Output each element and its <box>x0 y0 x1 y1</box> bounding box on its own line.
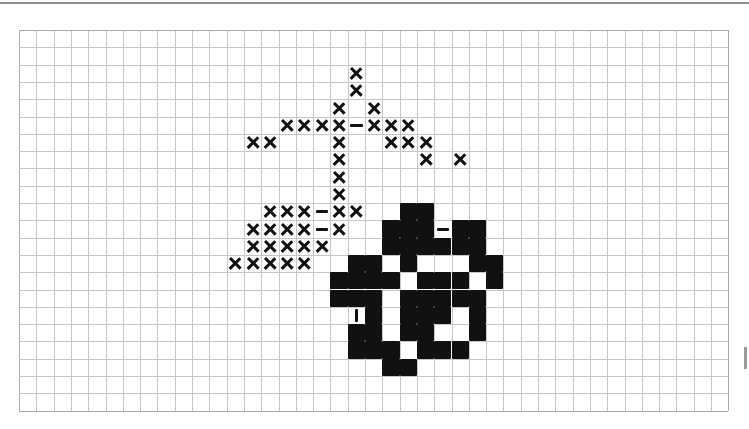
stitch-block[interactable] <box>452 341 469 358</box>
stitch-block[interactable] <box>417 324 434 341</box>
stitch-cross[interactable] <box>261 203 278 220</box>
stitch-bar[interactable] <box>348 307 365 324</box>
stitch-cross[interactable] <box>400 134 417 151</box>
stitch-block[interactable] <box>417 290 434 307</box>
stitch-cross[interactable] <box>365 99 382 116</box>
stitch-block[interactable] <box>348 290 365 307</box>
stitch-cross[interactable] <box>296 220 313 237</box>
stitch-block[interactable] <box>452 272 469 289</box>
stitch-cross[interactable] <box>296 255 313 272</box>
stitch-cross[interactable] <box>279 220 296 237</box>
stitch-block[interactable] <box>400 324 417 341</box>
stitch-block[interactable] <box>330 272 347 289</box>
stitch-cross[interactable] <box>400 117 417 134</box>
cross-stitch-grid[interactable] <box>19 30 728 411</box>
stitch-cross[interactable] <box>382 134 399 151</box>
stitch-cross[interactable] <box>330 117 347 134</box>
stitch-block[interactable] <box>400 238 417 255</box>
stitch-block[interactable] <box>469 238 486 255</box>
stitch-dash[interactable] <box>434 220 451 237</box>
stitch-block[interactable] <box>382 220 399 237</box>
stitch-block[interactable] <box>434 272 451 289</box>
stitch-cross[interactable] <box>296 238 313 255</box>
stitch-cross[interactable] <box>279 117 296 134</box>
stitch-block[interactable] <box>417 307 434 324</box>
stitch-block[interactable] <box>400 203 417 220</box>
stitch-block[interactable] <box>452 290 469 307</box>
stitch-block[interactable] <box>417 341 434 358</box>
stitch-cross[interactable] <box>261 255 278 272</box>
stitch-layer[interactable] <box>19 30 728 411</box>
stitch-block[interactable] <box>382 359 399 376</box>
stitch-cross[interactable] <box>348 203 365 220</box>
stitch-cross[interactable] <box>261 134 278 151</box>
stitch-block[interactable] <box>365 272 382 289</box>
stitch-cross[interactable] <box>417 134 434 151</box>
stitch-block[interactable] <box>365 255 382 272</box>
stitch-block[interactable] <box>469 307 486 324</box>
stitch-block[interactable] <box>400 220 417 237</box>
stitch-cross[interactable] <box>296 117 313 134</box>
stitch-block[interactable] <box>469 290 486 307</box>
stitch-cross[interactable] <box>417 151 434 168</box>
stitch-cross[interactable] <box>330 168 347 185</box>
stitch-block[interactable] <box>382 341 399 358</box>
stitch-block[interactable] <box>417 272 434 289</box>
stitch-block[interactable] <box>469 324 486 341</box>
stitch-block[interactable] <box>330 290 347 307</box>
stitch-block[interactable] <box>417 203 434 220</box>
stitch-cross[interactable] <box>365 117 382 134</box>
stitch-cross[interactable] <box>330 151 347 168</box>
stitch-cross[interactable] <box>296 203 313 220</box>
stitch-block[interactable] <box>365 290 382 307</box>
stitch-dash[interactable] <box>313 203 330 220</box>
stitch-block[interactable] <box>469 255 486 272</box>
stitch-dash[interactable] <box>313 220 330 237</box>
stitch-cross[interactable] <box>348 65 365 82</box>
stitch-cross[interactable] <box>244 134 261 151</box>
stitch-cross[interactable] <box>313 117 330 134</box>
stitch-cross[interactable] <box>330 186 347 203</box>
stitch-cross[interactable] <box>330 99 347 116</box>
stitch-cross[interactable] <box>279 255 296 272</box>
stitch-cross[interactable] <box>348 82 365 99</box>
stitch-block[interactable] <box>400 290 417 307</box>
stitch-block[interactable] <box>382 272 399 289</box>
stitch-block[interactable] <box>348 272 365 289</box>
stitch-block[interactable] <box>434 307 451 324</box>
stitch-block[interactable] <box>400 307 417 324</box>
stitch-block[interactable] <box>417 238 434 255</box>
stitch-cross[interactable] <box>279 203 296 220</box>
stitch-dash[interactable] <box>348 117 365 134</box>
stitch-block[interactable] <box>452 220 469 237</box>
stitch-cross[interactable] <box>244 255 261 272</box>
stitch-cross[interactable] <box>452 151 469 168</box>
stitch-block[interactable] <box>486 255 503 272</box>
stitch-block[interactable] <box>400 359 417 376</box>
stitch-block[interactable] <box>365 324 382 341</box>
stitch-block[interactable] <box>365 341 382 358</box>
stitch-cross[interactable] <box>382 117 399 134</box>
stitch-block[interactable] <box>348 341 365 358</box>
stitch-cross[interactable] <box>330 134 347 151</box>
stitch-block[interactable] <box>348 255 365 272</box>
stitch-block[interactable] <box>365 307 382 324</box>
stitch-block[interactable] <box>434 290 451 307</box>
stitch-cross[interactable] <box>279 238 296 255</box>
stitch-cross[interactable] <box>330 220 347 237</box>
stitch-block[interactable] <box>469 220 486 237</box>
stitch-cross[interactable] <box>261 238 278 255</box>
stitch-cross[interactable] <box>330 203 347 220</box>
stitch-block[interactable] <box>382 238 399 255</box>
stitch-cross[interactable] <box>244 238 261 255</box>
stitch-cross[interactable] <box>261 220 278 237</box>
stitch-block[interactable] <box>486 272 503 289</box>
stitch-block[interactable] <box>417 220 434 237</box>
stitch-block[interactable] <box>452 238 469 255</box>
stitch-cross[interactable] <box>313 238 330 255</box>
stitch-block[interactable] <box>348 324 365 341</box>
stitch-cross[interactable] <box>227 255 244 272</box>
stitch-block[interactable] <box>434 341 451 358</box>
stitch-block[interactable] <box>400 255 417 272</box>
stitch-cross[interactable] <box>244 220 261 237</box>
